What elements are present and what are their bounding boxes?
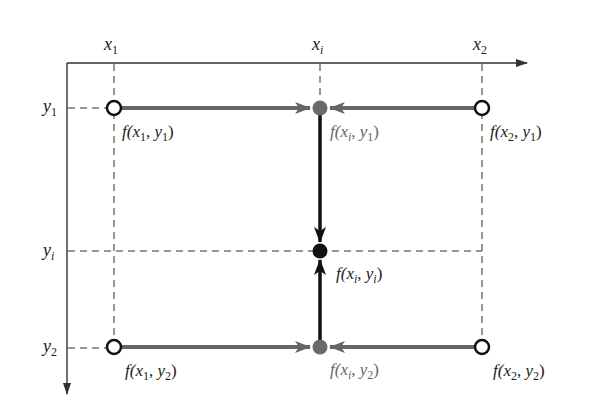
axes — [67, 63, 527, 394]
label-f-xi-y1: f(xi, y1) — [330, 122, 379, 144]
point-f-xi-y2 — [313, 340, 328, 355]
label-f-xi-y2: f(xi, y2) — [330, 360, 379, 382]
label-f-x2-y1: f(x2, y1) — [490, 122, 542, 144]
bilinear-interpolation-diagram: x1 xi x2 y1 yi y2 f(x1, y1) f(xi, y1) f(… — [0, 0, 590, 419]
point-f-x2-y1 — [475, 101, 489, 115]
label-f-x2-y2: f(x2, y2) — [493, 361, 545, 383]
tick-x2: x2 — [472, 34, 487, 57]
point-f-x1-y1 — [107, 101, 121, 115]
tick-yi: yi — [41, 240, 54, 263]
y-tick-labels: y1 yi y2 — [41, 96, 57, 359]
tick-x1: x1 — [103, 34, 118, 57]
point-f-xi-yi — [313, 244, 328, 259]
tick-y1: y1 — [41, 96, 57, 119]
point-f-x1-y2 — [107, 340, 121, 354]
label-f-xi-yi: f(xi, yi) — [336, 264, 382, 286]
x-tick-labels: x1 xi x2 — [103, 34, 487, 57]
horizontal-interpolation-arrows — [122, 108, 474, 347]
tick-y2: y2 — [41, 336, 57, 359]
label-f-x1-y2: f(x1, y2) — [125, 361, 177, 383]
tick-xi: xi — [311, 34, 323, 57]
point-f-x2-y2 — [475, 340, 489, 354]
point-f-xi-y1 — [313, 101, 328, 116]
label-f-x1-y1: f(x1, y1) — [122, 122, 174, 144]
